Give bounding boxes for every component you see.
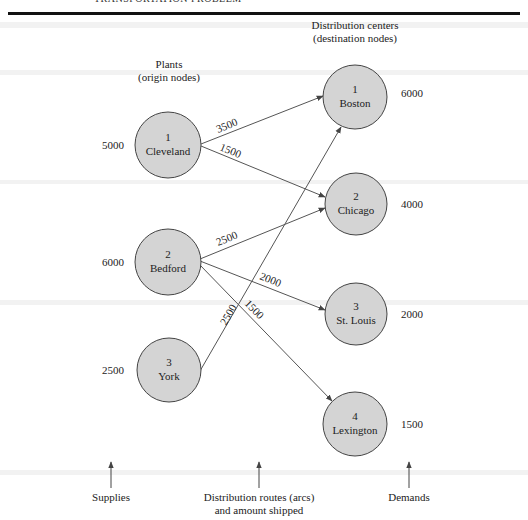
node-york-id: 3: [166, 356, 172, 368]
demand-lexington: 1500: [401, 418, 424, 430]
node-bedford-id: 2: [165, 248, 171, 260]
demand-stlouis: 2000: [401, 308, 424, 320]
arc-bedford-lexington: [199, 264, 332, 401]
node-boston-name: Boston: [339, 97, 371, 109]
arc-bedford-chicago: [200, 208, 325, 259]
node-lexington-id: 4: [352, 410, 358, 422]
supply-bedford: 6000: [102, 256, 125, 268]
footer-routes-label: Distribution routes (arcs) and amount sh…: [194, 491, 324, 517]
arc-cleveland-boston: [201, 96, 323, 144]
arc-label-bedford-stlouis: 2000: [258, 270, 283, 290]
node-cleveland-id: 1: [165, 131, 171, 143]
arc-cleveland-chicago: [201, 146, 325, 197]
arc-bedford-stlouis: [200, 261, 325, 310]
supply-cleveland: 5000: [102, 139, 125, 151]
node-stlouis-id: 3: [353, 300, 359, 312]
arc-york-boston: [200, 127, 341, 371]
footer-routes-line1: Distribution routes (arcs): [194, 491, 324, 504]
arc-label-bedford-lexington: 1500: [243, 297, 267, 322]
arc-label-cleveland-boston: 3500: [214, 115, 239, 135]
node-chicago-id: 2: [353, 190, 359, 202]
node-stlouis-name: St. Louis: [336, 314, 376, 326]
supply-york: 2500: [102, 364, 125, 376]
demand-chicago: 4000: [401, 198, 424, 210]
node-york-name: York: [158, 370, 180, 382]
footer-demands-label: Demands: [369, 491, 449, 504]
footer-supplies-label: Supplies: [71, 491, 151, 504]
node-boston-id: 1: [352, 83, 358, 95]
node-chicago-name: Chicago: [338, 204, 375, 216]
arc-label-york-boston: 2500: [217, 302, 239, 327]
footer-routes-line2: and amount shipped: [194, 504, 324, 517]
node-cleveland-name: Cleveland: [146, 145, 191, 157]
node-lexington-name: Lexington: [332, 424, 378, 436]
node-bedford-name: Bedford: [150, 262, 187, 274]
network-diagram: 3500 1500 2500 2000 1500 2500 1 Clevelan…: [0, 0, 528, 520]
demand-boston: 6000: [401, 87, 424, 99]
arc-label-cleveland-chicago: 1500: [218, 141, 243, 161]
